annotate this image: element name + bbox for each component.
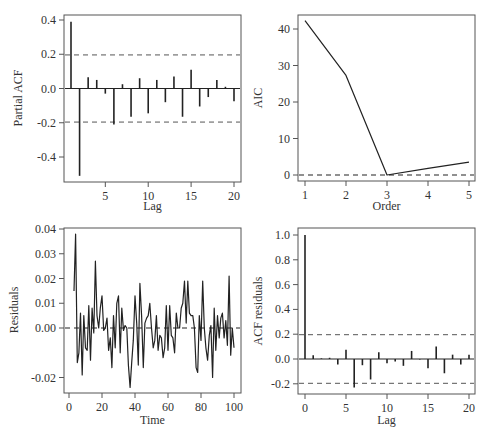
plot-frame — [298, 15, 475, 181]
x-axis-label: Lag — [377, 413, 396, 427]
y-tick-label: 20 — [278, 95, 290, 109]
y-tick-label: 0.03 — [35, 247, 56, 261]
y-tick-label: 0 — [284, 168, 290, 182]
data-line — [74, 234, 234, 387]
y-tick-label: 0.0 — [275, 352, 290, 366]
y-tick-label: 1.0 — [275, 228, 290, 242]
y-axis-label: ACF residuals — [251, 276, 265, 345]
x-tick-label: 2 — [343, 188, 349, 202]
y-axis-label: AIC — [251, 88, 265, 109]
x-tick-label: 20 — [463, 401, 475, 415]
y-axis-label: Partial ACF — [11, 69, 25, 126]
pacf-panel: 5101520-0.4-0.20.00.20.4LagPartial ACF — [11, 13, 241, 213]
data-line — [305, 21, 469, 175]
x-tick-label: 100 — [225, 400, 243, 414]
y-tick-label: 0.2 — [275, 327, 290, 341]
y-tick-label: 0.6 — [275, 278, 290, 292]
y-tick-label: -0.02 — [31, 371, 56, 385]
x-tick-label: 5 — [343, 401, 349, 415]
y-tick-label: -0.2 — [37, 116, 56, 130]
x-tick-label: 1 — [302, 188, 308, 202]
x-tick-label: 5 — [466, 188, 472, 202]
aic-panel: 12345010203040OrderAIC — [251, 15, 475, 213]
x-tick-label: 20 — [96, 400, 108, 414]
y-tick-label: 0.2 — [41, 47, 56, 61]
y-tick-label: 0.4 — [41, 13, 56, 27]
x-tick-label: 15 — [185, 189, 197, 203]
y-tick-label: 40 — [278, 22, 290, 36]
y-tick-label: 10 — [278, 132, 290, 146]
plot-frame — [298, 228, 475, 394]
x-tick-label: 0 — [66, 400, 72, 414]
y-tick-label: 0.8 — [275, 253, 290, 267]
y-axis-label: Residuals — [7, 286, 21, 333]
x-tick-label: 4 — [425, 188, 431, 202]
y-tick-label: -0.4 — [37, 150, 56, 164]
y-tick-label: 30 — [278, 59, 290, 73]
y-tick-label: 0.02 — [35, 272, 56, 286]
x-axis-label: Time — [140, 413, 165, 427]
x-tick-label: 80 — [195, 400, 207, 414]
x-tick-label: 40 — [129, 400, 141, 414]
x-tick-label: 0 — [302, 401, 308, 415]
y-tick-label: -0.2 — [271, 377, 290, 391]
x-tick-label: 15 — [422, 401, 434, 415]
x-axis-label: Lag — [143, 199, 162, 213]
x-tick-label: 5 — [102, 189, 108, 203]
plot-frame — [64, 15, 241, 182]
figure: 5101520-0.4-0.20.00.20.4LagPartial ACF 1… — [0, 0, 488, 439]
x-axis-label: Order — [373, 199, 401, 213]
x-tick-label: 60 — [162, 400, 174, 414]
x-tick-label: 20 — [228, 189, 240, 203]
y-tick-label: 0.00 — [35, 321, 56, 335]
y-tick-label: 0.4 — [275, 302, 290, 316]
y-tick-label: 0.0 — [41, 82, 56, 96]
residuals-panel: 020406080100-0.020.000.010.020.030.04Tim… — [7, 222, 243, 427]
y-tick-label: 0.01 — [35, 296, 56, 310]
acf-residuals-panel: 05101520-0.20.00.20.40.60.81.0LagACF res… — [251, 228, 475, 427]
y-tick-label: 0.04 — [35, 222, 56, 236]
